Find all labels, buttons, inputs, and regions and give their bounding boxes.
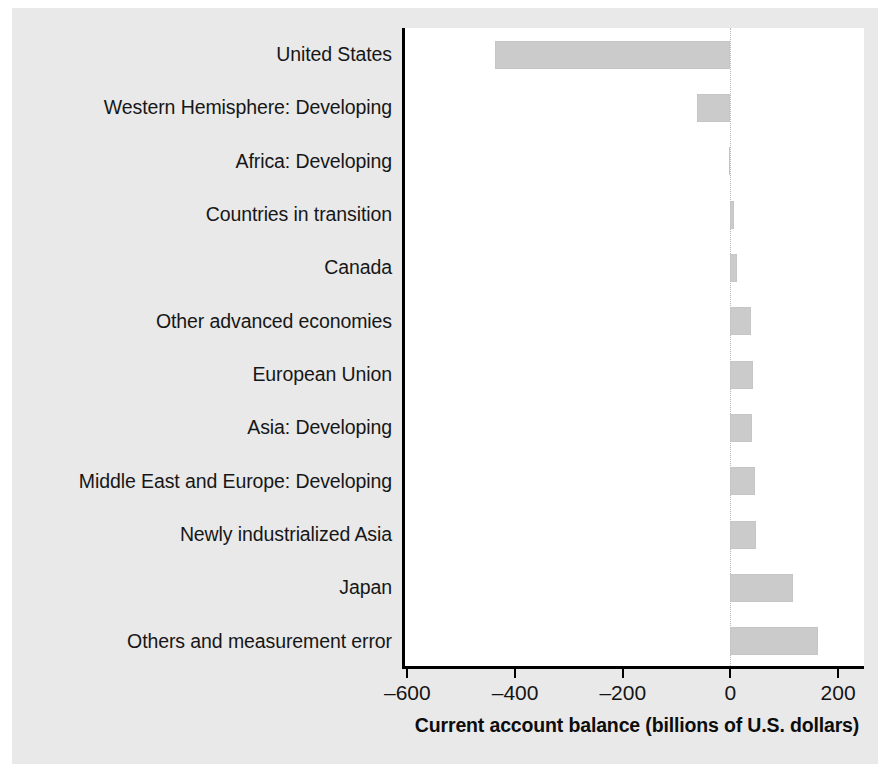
x-axis-tick [622, 666, 624, 678]
category-label: Africa: Developing [236, 150, 392, 173]
x-axis-tick-label: 0 [725, 681, 737, 705]
category-label-row: European Union [20, 348, 392, 401]
category-label: Canada [324, 256, 392, 279]
category-label-row: Africa: Developing [20, 135, 392, 188]
bar [730, 574, 792, 602]
category-label: Newly industrialized Asia [180, 523, 392, 546]
bar [730, 361, 753, 389]
category-label-row: Japan [20, 561, 392, 614]
bar-series [402, 28, 864, 668]
category-label-row: Middle East and Europe: Developing [20, 455, 392, 508]
bar [495, 41, 730, 69]
category-label: Other advanced economies [156, 310, 392, 333]
category-axis-labels: United StatesWestern Hemisphere: Develop… [20, 28, 392, 668]
category-label: European Union [252, 363, 392, 386]
category-label-row: Asia: Developing [20, 401, 392, 454]
category-label: United States [276, 43, 392, 66]
x-axis-title: Current account balance (billions of U.S… [402, 714, 872, 737]
x-axis-tick-label: –600 [384, 681, 431, 705]
category-label-row: Countries in transition [20, 188, 392, 241]
x-axis-tick [729, 666, 731, 678]
bar [730, 627, 817, 655]
category-label-row: United States [20, 28, 392, 81]
bar [730, 254, 737, 282]
x-axis-tick [406, 666, 408, 678]
category-label: Western Hemisphere: Developing [104, 96, 392, 119]
bar [730, 521, 756, 549]
x-axis-tick-label: –200 [599, 681, 646, 705]
bar [729, 147, 730, 175]
category-label-row: Others and measurement error [20, 615, 392, 668]
x-axis-tick [837, 666, 839, 678]
category-label: Middle East and Europe: Developing [79, 470, 392, 493]
category-label: Japan [339, 576, 392, 599]
category-label-row: Canada [20, 241, 392, 294]
category-label-row: Other advanced economies [20, 295, 392, 348]
category-label: Others and measurement error [127, 630, 392, 653]
x-axis-tick [514, 666, 516, 678]
bar [730, 201, 733, 229]
bar [730, 307, 751, 335]
chart-figure: United StatesWestern Hemisphere: Develop… [0, 0, 890, 772]
bar [697, 94, 731, 122]
bar [730, 467, 755, 495]
x-axis-tick-label: 200 [821, 681, 856, 705]
x-axis-tick-label: –400 [492, 681, 539, 705]
category-label: Asia: Developing [247, 416, 392, 439]
category-label-row: Western Hemisphere: Developing [20, 81, 392, 134]
category-label: Countries in transition [206, 203, 392, 226]
bar [730, 414, 752, 442]
category-label-row: Newly industrialized Asia [20, 508, 392, 561]
